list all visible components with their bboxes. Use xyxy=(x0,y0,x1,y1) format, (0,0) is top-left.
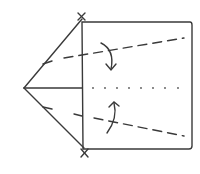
square-paper xyxy=(82,22,192,149)
upper-valley-fold xyxy=(43,38,184,64)
left-triangle-flap xyxy=(24,19,84,148)
center-crease xyxy=(92,87,179,89)
bottom-reference-mark xyxy=(81,149,88,157)
upper-fold-arrow xyxy=(101,43,116,70)
lower-fold-arrow xyxy=(107,102,119,133)
folding-diagram xyxy=(0,0,200,174)
